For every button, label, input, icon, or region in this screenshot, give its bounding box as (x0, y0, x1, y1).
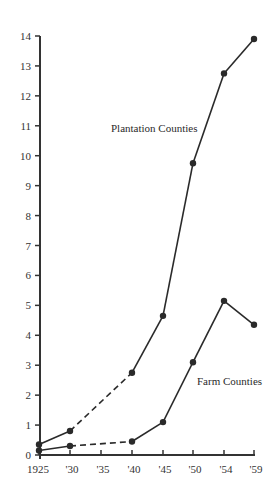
x-tick-label: '45 (159, 463, 172, 475)
x-tick-label: '35 (97, 463, 110, 475)
line-segment (132, 316, 163, 373)
dashed-segment (70, 442, 132, 446)
data-point-marker (36, 441, 42, 447)
y-tick-label: 1 (26, 419, 32, 431)
y-tick-label: 4 (26, 329, 32, 341)
line-segment (224, 301, 254, 325)
data-point-marker (129, 369, 135, 375)
data-point-marker (190, 359, 196, 365)
line-segment (39, 446, 70, 450)
line-segment (132, 422, 163, 441)
data-point-marker (251, 36, 257, 42)
series-labels: Plantation CountiesFarm Counties (111, 122, 262, 387)
data-point-marker (221, 298, 227, 304)
y-tick-label: 11 (20, 120, 31, 132)
series-label-farm-counties: Farm Counties (197, 375, 262, 387)
line-segment (39, 431, 70, 444)
data-point-marker (67, 443, 73, 449)
data-point-marker (160, 313, 166, 319)
data-point-marker (160, 419, 166, 425)
y-tick-label: 6 (26, 269, 32, 281)
y-tick-label: 9 (26, 180, 32, 192)
x-tick-label: '59 (250, 463, 263, 475)
x-tick-label: '40 (128, 463, 141, 475)
line-chart: 01234567891011121314 1925'30'35'40'45'50… (0, 0, 272, 504)
line-segment (163, 362, 193, 422)
y-tick-label: 8 (26, 210, 32, 222)
y-tick-label: 12 (20, 90, 31, 102)
data-point-marker (251, 322, 257, 328)
line-segment (193, 73, 224, 163)
y-tick-label: 14 (20, 30, 32, 42)
data-point-marker (221, 70, 227, 76)
data-point-marker (36, 447, 42, 453)
y-tick-label: 13 (20, 60, 32, 72)
x-tick-label: '30 (66, 463, 79, 475)
y-axis: 01234567891011121314 (20, 30, 40, 461)
x-axis: 1925'30'35'40'45'50'54'59 (27, 450, 263, 475)
y-tick-label: 0 (26, 449, 32, 461)
y-tick-label: 5 (26, 299, 32, 311)
y-tick-label: 3 (26, 359, 32, 371)
x-tick-label: 1925 (27, 463, 50, 475)
y-tick-label: 7 (26, 240, 32, 252)
line-segment (193, 301, 224, 362)
y-tick-label: 10 (20, 150, 32, 162)
series-layer (36, 36, 257, 454)
data-point-marker (67, 428, 73, 434)
data-point-marker (190, 160, 196, 166)
x-tick-label: '50 (189, 463, 202, 475)
dashed-segment (70, 373, 132, 431)
data-point-marker (129, 438, 135, 444)
x-tick-label: '54 (220, 463, 233, 475)
line-segment (163, 163, 193, 316)
line-segment (224, 39, 254, 73)
y-tick-label: 2 (26, 389, 32, 401)
series-label-plantation-counties: Plantation Counties (111, 122, 197, 134)
